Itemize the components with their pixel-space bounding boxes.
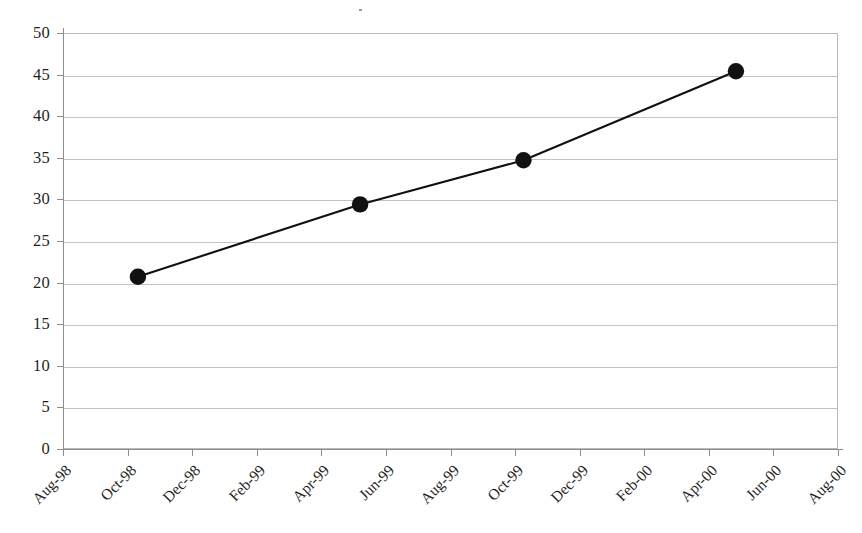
- x-tick-mark: [580, 449, 581, 456]
- x-tick-label-text: Oct-99: [485, 462, 526, 503]
- x-tick-label-text: Aug-99: [417, 462, 461, 506]
- gridline: [64, 159, 837, 160]
- x-tick-mark: [63, 449, 64, 456]
- y-tick-label: 30: [6, 191, 50, 208]
- x-tick-label-text: Jun-99: [356, 462, 397, 503]
- x-tick-label-text: Dec-99: [547, 462, 590, 505]
- gridline: [64, 200, 837, 201]
- gridline: [64, 408, 837, 409]
- gridline: [64, 367, 837, 368]
- y-tick-mark: [57, 407, 63, 408]
- y-tick-label: 10: [6, 358, 50, 375]
- x-tick-label-text: Apr-99: [290, 462, 332, 504]
- y-tick-label: 0: [6, 441, 50, 458]
- x-tick-mark: [192, 449, 193, 456]
- x-tick-label-text: Jun-00: [744, 462, 785, 503]
- y-tick-label: 45: [6, 67, 50, 84]
- y-tick-mark: [57, 241, 63, 242]
- x-tick-label-text: Feb-00: [613, 462, 655, 504]
- x-tick-mark: [128, 449, 129, 456]
- y-tick-mark: [57, 199, 63, 200]
- y-tick-label: 35: [6, 150, 50, 167]
- y-tick-label: 25: [6, 233, 50, 250]
- y-axis-line: [63, 28, 64, 454]
- y-tick-label: 15: [6, 316, 50, 333]
- x-tick-mark: [451, 449, 452, 456]
- x-tick-mark: [838, 449, 839, 456]
- y-tick-mark: [57, 324, 63, 325]
- gridline: [64, 76, 837, 77]
- y-tick-mark: [57, 75, 63, 76]
- gridline: [64, 284, 837, 285]
- y-tick-mark: [57, 366, 63, 367]
- x-tick-mark: [321, 449, 322, 456]
- plot-area: [63, 33, 838, 449]
- y-tick-mark: [57, 158, 63, 159]
- gridline: [64, 325, 837, 326]
- x-tick-label-text: Dec-98: [160, 462, 203, 505]
- x-tick-label-text: Aug-98: [30, 462, 74, 506]
- x-tick-label-text: Apr-00: [677, 462, 719, 504]
- x-tick-mark: [515, 449, 516, 456]
- x-tick-label-text: Oct-98: [97, 462, 138, 503]
- y-tick-label: 50: [6, 25, 50, 42]
- x-tick-mark: [709, 449, 710, 456]
- line-chart: 05101520253035404550 Aug-98Oct-98Dec-98F…: [0, 0, 862, 533]
- y-tick-label: 40: [6, 108, 50, 125]
- x-tick-mark: [773, 449, 774, 456]
- gridline: [64, 117, 837, 118]
- y-tick-label: 5: [6, 399, 50, 416]
- x-tick-mark: [644, 449, 645, 456]
- scan-artifact-speck: [359, 9, 362, 11]
- x-tick-label-text: Aug-00: [805, 462, 849, 506]
- y-tick-mark: [57, 116, 63, 117]
- y-tick-mark: [57, 33, 63, 34]
- x-tick-label-text: Feb-99: [226, 462, 268, 504]
- gridline: [64, 242, 837, 243]
- x-tick-label: Aug-98: [0, 462, 74, 533]
- x-tick-mark: [257, 449, 258, 456]
- y-tick-mark: [57, 283, 63, 284]
- x-tick-mark: [386, 449, 387, 456]
- y-tick-label: 20: [6, 275, 50, 292]
